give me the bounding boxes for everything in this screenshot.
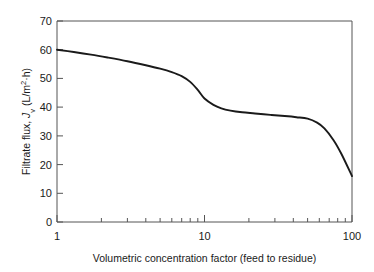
x-axis-tick-labels: 1 10 100 [54,230,361,242]
svg-text:Filtrate flux, Jv (L/m2·h): Filtrate flux, Jv (L/m2·h) [19,68,37,175]
y-tick-label-40: 40 [40,101,52,113]
y-tick-label-20: 20 [40,159,52,171]
x-axis-title: Volumetric concentration factor (feed to… [93,252,317,264]
x-tick-label-100: 100 [343,230,361,242]
y-axis-title-units-tail: ·h) [20,68,32,81]
x-tick-label-1: 1 [54,230,60,242]
y-axis-title: Filtrate flux, Jv (L/m2·h) [19,68,37,175]
y-tick-label-50: 50 [40,72,52,84]
y-tick-label-70: 70 [40,15,52,27]
y-tick-label-30: 30 [40,130,52,142]
chart-figure: 0 10 20 30 40 50 60 70 [0,0,374,272]
y-tick-label-0: 0 [46,216,52,228]
chart-plot-area: 0 10 20 30 40 50 60 70 [0,0,374,272]
x-tick-label-10: 10 [198,230,210,242]
y-axis-title-units: (L/m [20,85,32,109]
y-tick-label-60: 60 [40,44,52,56]
y-axis-tick-labels: 0 10 20 30 40 50 60 70 [40,15,52,228]
y-axis-title-main: Filtrate flux, [20,118,32,175]
axis-frame [57,21,352,222]
x-axis-minor-ticks [101,218,345,222]
data-series-filtrate-flux [57,50,352,176]
y-tick-label-10: 10 [40,187,52,199]
